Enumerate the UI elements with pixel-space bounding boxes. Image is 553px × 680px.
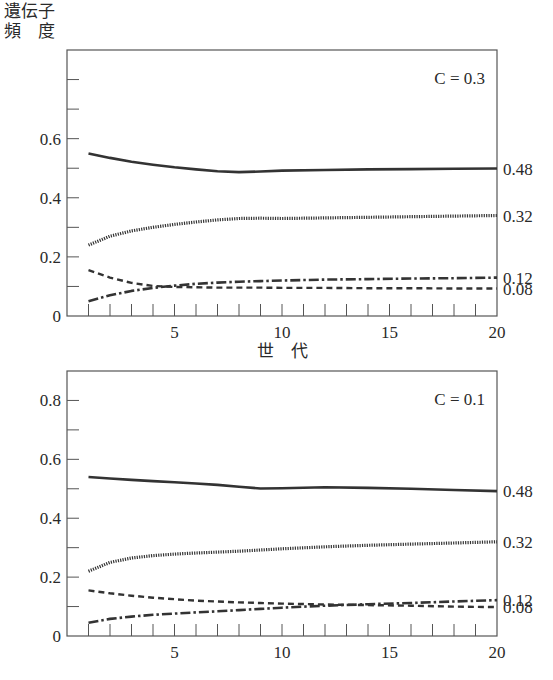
series-end-label-dashed: 0.08 (503, 598, 533, 617)
x-tick-label: 10 (274, 323, 291, 342)
x-tick-label: 10 (274, 643, 291, 662)
x-tick-label: 5 (170, 643, 179, 662)
x-tick-label: 20 (489, 323, 506, 342)
x-tick-label: 15 (381, 643, 398, 662)
x-axis-title: 世 代 (257, 342, 308, 361)
figure-canvas: 00.20.40.65101520C = 0.30.480.320.120.08… (0, 0, 553, 680)
series-line-solid (89, 477, 498, 491)
series-end-label-dashed: 0.08 (503, 280, 533, 299)
chart-panel-c03: 00.20.40.65101520C = 0.30.480.320.120.08 (40, 50, 533, 342)
series-end-label-solid: 0.48 (503, 160, 533, 179)
y-tick-label: 0 (53, 627, 62, 646)
y-tick-label: 0.4 (40, 189, 62, 208)
series-end-label-dotted: 0.32 (503, 207, 533, 226)
series-line-solid (89, 153, 498, 172)
panel-title: C = 0.1 (434, 390, 485, 409)
series-line-dotted (89, 216, 498, 246)
series-end-label-solid: 0.48 (503, 482, 533, 501)
x-tick-label: 5 (170, 323, 179, 342)
y-tick-label: 0.4 (40, 509, 62, 528)
panel-title: C = 0.3 (434, 69, 485, 88)
series-line-dash-dot (89, 278, 498, 302)
x-tick-label: 20 (489, 643, 506, 662)
series-line-dotted (89, 542, 498, 571)
y-tick-label: 0.6 (40, 450, 61, 469)
y-tick-label: 0.2 (40, 568, 61, 587)
y-tick-label: 0.8 (40, 391, 61, 410)
y-tick-label: 0 (53, 307, 62, 326)
x-tick-label: 15 (381, 323, 398, 342)
series-line-dashed (89, 590, 498, 607)
series-end-label-dotted: 0.32 (503, 533, 533, 552)
y-tick-label: 0.6 (40, 130, 61, 149)
y-tick-label: 0.2 (40, 248, 61, 267)
chart-panel-c01: 00.20.40.60.85101520C = 0.10.480.320.120… (40, 371, 533, 662)
plot-frame (67, 50, 497, 316)
